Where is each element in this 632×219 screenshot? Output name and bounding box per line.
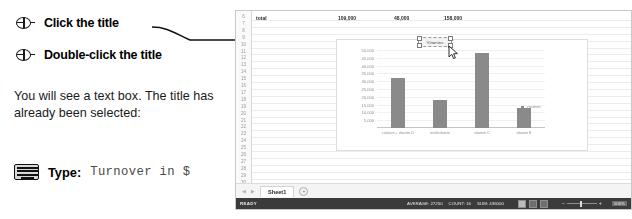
chart-gridline: [377, 58, 545, 59]
chart-bar[interactable]: [391, 78, 405, 128]
step-type-title: Type: Turnover in $: [14, 164, 190, 180]
status-count: COUNT: 16: [449, 201, 471, 206]
chart-y-tick-label: 30,000: [361, 79, 374, 84]
chart-y-tick-label: 5,000: [364, 118, 374, 123]
grid-line: [251, 27, 631, 28]
grid-line: [251, 34, 631, 35]
view-page-layout-button[interactable]: [529, 200, 537, 208]
resize-handle-sw[interactable]: [417, 43, 421, 47]
add-sheet-button[interactable]: +: [299, 187, 308, 196]
cell-value-1: 109,000: [338, 15, 356, 21]
chart-gridline: [377, 50, 545, 51]
sheet-tab-bar: ◀ ▶ Sheet1 +: [236, 183, 631, 198]
grid-line: [251, 151, 631, 152]
chart-y-tick-label: 20,000: [361, 94, 374, 99]
chart-x-tick-label: multivitamin: [430, 131, 449, 135]
cell-value-2: 48,000: [394, 15, 409, 21]
resize-handle-nw[interactable]: [417, 36, 421, 40]
grid-line: [251, 172, 631, 173]
zoom-slider[interactable]: − +: [562, 201, 602, 206]
view-mode-buttons: [518, 200, 548, 208]
chart-y-tick-label: 15,000: [361, 102, 374, 107]
chart-y-tick-label: 50,000: [361, 48, 374, 53]
spreadsheet-grid[interactable]: 6789101112131415161718192021222324252627…: [236, 11, 631, 183]
sheet-nav-next-icon[interactable]: ▶: [251, 188, 255, 194]
step-double-click-title: Double-click the title: [16, 48, 162, 62]
chart-bar[interactable]: [517, 108, 531, 128]
step-click-title: Click the title: [16, 16, 119, 30]
mouse-icon: [16, 17, 35, 30]
chart-object[interactable]: Vitamins 50,00045,00040,00035,00030,0002…: [336, 39, 588, 151]
spreadsheet-data-row: total 109,000 48,000 158,000: [256, 15, 596, 23]
instruction-panel: Click the title Double-click the title Y…: [0, 0, 235, 219]
chart-x-tick-label: calcium + vitamin D: [382, 131, 414, 135]
chart-gridline: [377, 73, 545, 74]
zoom-slider-track[interactable]: [567, 203, 597, 204]
chart-y-tick-label: 40,000: [361, 63, 374, 68]
chart-title-textbox[interactable]: Vitamins: [418, 37, 452, 47]
chart-x-tick-label: vitamin C: [474, 131, 489, 135]
mouse-cursor-icon: [448, 45, 459, 60]
chart-title-text: Vitamins: [427, 40, 444, 45]
instruction-body-text: You will see a text box. The title has a…: [14, 88, 226, 121]
chart-y-tick-label: 10,000: [361, 110, 374, 115]
excel-window: 6789101112131415161718192021222324252627…: [235, 10, 632, 210]
chart-gridline: [377, 66, 545, 67]
chart-y-tick-label: 25,000: [361, 87, 374, 92]
chart-plot-area: Vitamins 50,00045,00040,00035,00030,0002…: [377, 50, 545, 128]
step-double-click-title-label: Double-click the title: [44, 48, 162, 62]
chart-bar[interactable]: [433, 100, 447, 128]
grid-line: [251, 179, 631, 180]
zoom-level-label[interactable]: 100%: [612, 201, 627, 206]
chart-y-tick-label: 45,000: [361, 55, 374, 60]
type-value: Turnover in $: [90, 165, 190, 179]
view-normal-button[interactable]: [518, 200, 526, 208]
status-ready-label: READY: [240, 201, 257, 206]
chart-x-tick-label: vitamin E: [516, 131, 531, 135]
zoom-slider-thumb[interactable]: [580, 201, 582, 207]
type-label: Type:: [48, 165, 81, 180]
view-page-break-button[interactable]: [540, 200, 548, 208]
cell-value-3: 158,000: [444, 15, 462, 21]
sheet-nav-prev-icon[interactable]: ◀: [242, 188, 246, 194]
sheet-tab-sheet1[interactable]: Sheet1: [260, 186, 294, 197]
status-statistics: AVERAGE: 27250 COUNT: 16 SUM: 436000 − +…: [407, 200, 627, 208]
chart-bar[interactable]: [475, 53, 489, 128]
status-sum: SUM: 436000: [477, 201, 504, 206]
zoom-in-icon[interactable]: +: [599, 201, 602, 206]
status-average: AVERAGE: 27250: [407, 201, 443, 206]
step-click-title-label: Click the title: [44, 16, 119, 30]
resize-handle-ne[interactable]: [448, 36, 452, 40]
row-header-gutter: 6789101112131415161718192021222324252627…: [236, 11, 252, 183]
chart-y-tick-label: 35,000: [361, 71, 374, 76]
cell-label: total: [256, 15, 267, 21]
status-bar: READY AVERAGE: 27250 COUNT: 16 SUM: 4360…: [236, 198, 631, 209]
zoom-out-icon[interactable]: −: [562, 201, 565, 206]
grid-line: [251, 165, 631, 166]
keyboard-icon: [14, 164, 39, 180]
grid-line: [251, 158, 631, 159]
mouse-icon: [16, 49, 35, 62]
